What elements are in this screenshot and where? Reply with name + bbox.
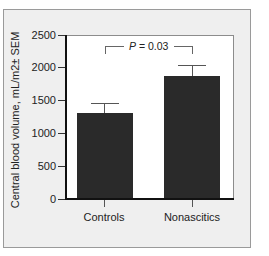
x-tick [192,200,193,207]
bracket-left-leg [105,46,106,54]
y-axis-label: Central blood volume, mL/m2± SEM [9,32,21,209]
p-value: = 0.03 [136,40,168,52]
y-tick-label: 2000 [20,61,56,73]
y-tick-label: 0 [20,193,56,205]
y-tick-label: 1000 [20,127,56,139]
x-tick-label-nonascitics: Nonascitics [147,211,237,223]
error-cap-controls [91,103,119,104]
p-symbol: P [129,40,136,52]
y-tick-label: 500 [20,160,56,172]
x-tick [104,200,105,207]
p-value-annotation: P = 0.03 [129,40,168,52]
bracket-right-leg [192,46,193,54]
x-axis [65,198,234,200]
error-bar-nonascitics [192,65,193,76]
y-tick-label: 1500 [20,94,56,106]
error-bar-controls [104,103,105,113]
bracket-left-arm [105,46,124,47]
bar-nonascitics [164,76,220,199]
bar-controls [77,113,133,199]
y-tick-label: 2500 [20,29,56,41]
bracket-right-arm [174,46,193,47]
error-cap-nonascitics [178,65,206,66]
y-axis [65,35,67,200]
x-tick-label-controls: Controls [59,211,149,223]
